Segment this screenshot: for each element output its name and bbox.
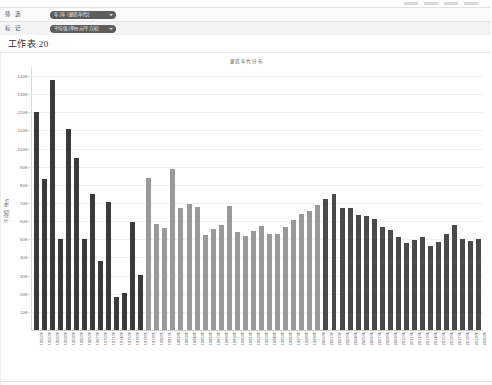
bar[interactable] — [178, 208, 183, 330]
bar[interactable] — [348, 208, 353, 330]
chevron-down-icon[interactable] — [109, 14, 113, 16]
bar[interactable] — [154, 224, 159, 330]
filter-pill-avg-price[interactable]: 平均值 [单价元/平方米] — [50, 25, 116, 33]
y-axis-tick-mark — [28, 185, 30, 186]
bar[interactable] — [444, 234, 449, 330]
bar[interactable] — [476, 239, 481, 330]
bar[interactable] — [356, 215, 361, 330]
bar[interactable] — [219, 225, 224, 330]
bar[interactable] — [396, 237, 401, 330]
bar[interactable] — [146, 178, 151, 330]
bar-series — [32, 67, 483, 330]
bar[interactable] — [170, 169, 175, 330]
bar[interactable] — [34, 112, 39, 330]
y-axis-tick-mark — [28, 221, 30, 222]
bar[interactable] — [42, 179, 47, 330]
bar[interactable] — [227, 206, 232, 330]
bar[interactable] — [275, 234, 280, 330]
bar[interactable] — [259, 226, 264, 330]
bar[interactable] — [114, 297, 119, 330]
bar[interactable] — [332, 194, 337, 330]
bar[interactable] — [420, 237, 425, 330]
x-axis-tick-label: 2011年 — [408, 332, 414, 345]
bar[interactable] — [267, 234, 272, 330]
bar[interactable] — [388, 230, 393, 330]
bar[interactable] — [106, 202, 111, 330]
x-axis-tick-label: 1960年 — [78, 332, 84, 345]
bar[interactable] — [283, 227, 288, 330]
x-axis-tick-label: 1992年 — [255, 332, 261, 345]
y-axis-tick-label: 10K — [20, 309, 28, 314]
x-axis-tick-labels: 1950年1955年1956年1958年1959年1960年1965年1967年… — [32, 332, 483, 382]
bar[interactable] — [162, 228, 167, 330]
bar[interactable] — [138, 275, 143, 330]
y-axis-tick-mark — [28, 312, 30, 313]
y-axis-tick-label: 50K — [20, 237, 28, 242]
x-axis-tick-label: 1970年 — [102, 332, 108, 345]
bar[interactable] — [307, 211, 312, 330]
bar[interactable] — [66, 129, 71, 330]
x-axis-tick-label: 1956年 — [54, 332, 60, 345]
y-axis-tick-mark — [28, 167, 30, 168]
x-axis-tick-label: 1979年 — [150, 332, 156, 345]
chart-title: 建造年代分布 — [1, 58, 492, 64]
bar[interactable] — [372, 219, 377, 330]
x-axis-tick-label: 1994年 — [271, 332, 277, 345]
filter-row-empty-space[interactable] — [116, 22, 491, 35]
bar[interactable] — [412, 240, 417, 330]
x-axis-tick-label: 2019年 — [473, 332, 479, 345]
bar[interactable] — [195, 207, 200, 330]
bar[interactable] — [251, 231, 256, 330]
bar[interactable] — [364, 216, 369, 330]
toolbar-tick — [464, 2, 478, 5]
bar[interactable] — [404, 243, 409, 330]
filter-row-filters[interactable]: 筛 选 年 [年 (建造年代)] — [0, 8, 491, 22]
bar[interactable] — [468, 241, 473, 330]
bar[interactable] — [323, 199, 328, 331]
bar[interactable] — [50, 80, 55, 330]
bar[interactable] — [211, 229, 216, 330]
y-axis-tick-label: 60K — [20, 219, 28, 224]
y-axis-tick-label: 80K — [20, 182, 28, 187]
x-axis-tick-label: 2013年 — [424, 332, 430, 345]
bar[interactable] — [299, 214, 304, 330]
bar[interactable] — [203, 235, 208, 330]
x-axis-tick-label: 1984年 — [191, 332, 197, 345]
filter-row-empty-space[interactable] — [116, 8, 491, 21]
x-axis-tick-label: 2016年 — [448, 332, 454, 345]
x-axis-tick-label: 2007年 — [376, 332, 382, 345]
filter-pill-year[interactable]: 年 [年 (建造年代)] — [50, 11, 116, 19]
x-axis-tick-label: 2012年 — [416, 332, 422, 345]
bar[interactable] — [130, 222, 135, 330]
y-axis-tick-mark — [28, 203, 30, 204]
y-axis-tick-label: 90K — [20, 164, 28, 169]
bar[interactable] — [187, 204, 192, 330]
bar[interactable] — [436, 242, 441, 330]
bar[interactable] — [98, 261, 103, 330]
x-axis-tick-label: 1965年 — [86, 332, 92, 345]
bar[interactable] — [74, 158, 79, 330]
x-axis-line — [31, 330, 483, 331]
x-axis-tick-label: 1955年 — [46, 332, 52, 345]
bar[interactable] — [340, 208, 345, 330]
x-axis-tick-label: 1950年 — [38, 332, 44, 345]
bar[interactable] — [82, 239, 87, 330]
filter-row-marks[interactable]: 标 记 平均值 [单价元/平方米] — [0, 22, 491, 36]
chevron-down-icon[interactable] — [109, 28, 113, 30]
bar[interactable] — [460, 239, 465, 330]
y-axis-tick-labels: 10K20K30K40K50K60K70K80K90K100K110K120K1… — [1, 67, 28, 330]
bar[interactable] — [428, 246, 433, 330]
bar[interactable] — [58, 239, 63, 330]
toolbar-tick — [444, 2, 458, 5]
toolbar-tick — [424, 2, 438, 5]
bar[interactable] — [90, 194, 95, 330]
bar[interactable] — [122, 293, 127, 330]
bar[interactable] — [452, 225, 457, 330]
y-axis-tick-label: 20K — [20, 291, 28, 296]
bar[interactable] — [315, 205, 320, 330]
bar[interactable] — [380, 227, 385, 330]
bar[interactable] — [243, 236, 248, 330]
bar[interactable] — [291, 220, 296, 330]
bar[interactable] — [235, 232, 240, 330]
